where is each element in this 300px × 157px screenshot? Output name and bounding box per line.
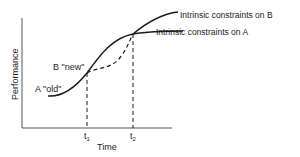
curve-a-label: A "old" <box>35 84 61 94</box>
t1-label: t1 <box>84 131 91 142</box>
constraint-b-label: Intrinsic constraints on B <box>180 10 273 20</box>
x-axis-label: Time <box>97 142 117 152</box>
y-axis-label: Performance <box>10 48 20 100</box>
s-curve-diagram: Performance Time t1 t2 A "old" B "new" I… <box>0 0 300 157</box>
curve-b-label: B "new" <box>53 62 84 72</box>
constraint-a-label: Intrinsic constraints on A <box>156 27 248 37</box>
curve-b-new-dashed <box>87 34 133 73</box>
t2-label: t2 <box>130 131 137 142</box>
